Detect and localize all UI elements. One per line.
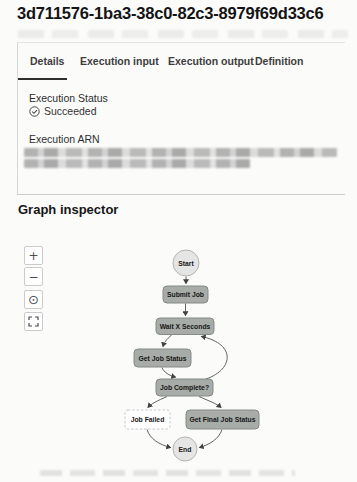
node-job-failed-label: Job Failed <box>131 416 165 423</box>
tab-details[interactable]: Details <box>30 43 64 79</box>
node-get-job-status[interactable]: Get Job Status <box>134 349 191 367</box>
execution-arn-redacted-line-2 <box>24 159 250 168</box>
execution-status-label: Execution Status <box>29 92 108 104</box>
edge-job-complete-wait-loop <box>202 337 228 381</box>
edge-job-complete-get-final <box>199 397 221 408</box>
node-get-job-status-label: Get Job Status <box>139 355 187 362</box>
execution-arn-redacted-line-1 <box>24 148 337 157</box>
details-card: Details Execution input Execution output… <box>17 42 345 195</box>
tab-execution-input[interactable]: Execution input <box>80 43 159 79</box>
execution-status-value-row: Succeeded <box>29 105 97 117</box>
node-get-final-job-status[interactable]: Get Final Job Status <box>186 410 259 429</box>
edge-job-complete-job-failed <box>148 397 167 408</box>
execution-arn-label: Execution ARN <box>29 133 100 145</box>
node-wait-x-seconds-label: Wait X Seconds <box>160 323 211 330</box>
tab-execution-output[interactable]: Execution output <box>168 43 254 79</box>
node-get-final-job-status-label: Get Final Job Status <box>190 416 256 423</box>
tab-definition[interactable]: Definition <box>255 43 303 79</box>
node-job-complete-label: Job Complete? <box>160 384 209 392</box>
node-wait-x-seconds[interactable]: Wait X Seconds <box>156 318 214 335</box>
edge-job-failed-end <box>147 430 171 448</box>
execution-status-value: Succeeded <box>44 105 97 117</box>
execution-details-page: 3d711576-1ba3-38c0-82c3-8979f69d33c6 Det… <box>0 0 357 482</box>
edge-get-job-status-job-complete <box>162 368 176 378</box>
node-start-label: Start <box>178 260 194 267</box>
graph-inspector-heading: Graph inspector <box>18 202 118 217</box>
workflow-graph: Start Submit Job Wait X Seconds Get Job … <box>0 230 357 478</box>
redacted-breadcrumb-strip <box>18 30 348 38</box>
node-start: Start <box>173 250 199 276</box>
edge-wait-get-job-status <box>163 335 172 347</box>
node-end-label: End <box>179 446 192 453</box>
page-caption-ghost <box>40 470 295 476</box>
edge-get-final-end <box>200 430 223 448</box>
page-title: 3d711576-1ba3-38c0-82c3-8979f69d33c6 <box>17 4 324 23</box>
node-submit-job-label: Submit Job <box>167 291 204 298</box>
active-tab-underline <box>18 78 67 80</box>
node-job-failed[interactable]: Job Failed <box>125 410 170 429</box>
status-succeeded-icon <box>29 106 40 117</box>
node-end: End <box>173 437 197 461</box>
node-submit-job[interactable]: Submit Job <box>163 286 208 303</box>
node-job-complete[interactable]: Job Complete? <box>156 379 213 396</box>
